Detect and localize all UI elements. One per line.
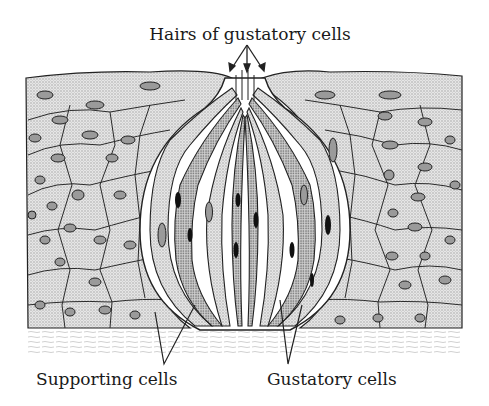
- label-hairs-of-gustatory-cells: Hairs of gustatory cells: [149, 24, 351, 44]
- label-supporting-cells: Supporting cells: [36, 369, 177, 389]
- label-gustatory-cells: Gustatory cells: [267, 369, 397, 389]
- taste-bud-diagram: Hairs of gustatory cells Supporting cell…: [0, 0, 489, 406]
- hairs-pointer: [229, 45, 265, 72]
